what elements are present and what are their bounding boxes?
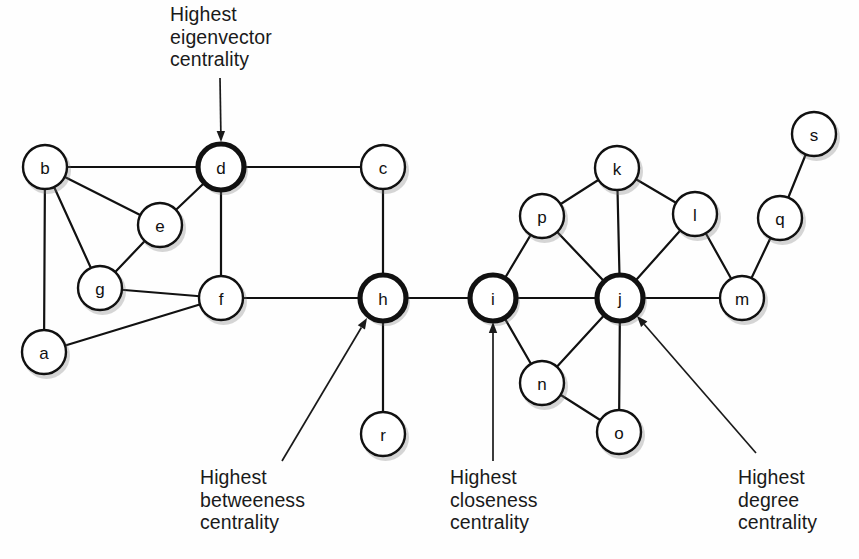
node-label: j (617, 290, 622, 309)
graph-node-g[interactable]: g (78, 266, 126, 315)
node-label: d (216, 159, 225, 178)
node-label: p (537, 208, 546, 227)
node-label: a (39, 344, 49, 363)
node-label: b (40, 159, 49, 178)
graph-node-q[interactable]: q (758, 196, 806, 245)
graph-node-a[interactable]: a (22, 330, 70, 379)
graph-node-b[interactable]: b (23, 145, 71, 194)
node-label: k (613, 160, 622, 179)
annotation-label-degree: Highest degree centrality (738, 466, 817, 534)
annotation-pointers-layer (217, 78, 756, 461)
node-label: f (219, 290, 224, 309)
graph-node-e[interactable]: e (138, 203, 186, 252)
graph-edge (44, 298, 221, 352)
graph-node-p[interactable]: p (520, 194, 568, 243)
annotation-arrow-line-eigenvector (220, 78, 221, 131)
node-label: s (810, 126, 819, 145)
node-label: r (380, 426, 386, 445)
node-label: o (614, 424, 623, 443)
graph-node-o[interactable]: o (597, 410, 645, 459)
node-label: i (491, 290, 495, 309)
node-label: q (775, 210, 784, 229)
graph-node-m[interactable]: m (720, 276, 768, 325)
node-label: e (155, 217, 164, 236)
graph-node-l[interactable]: l (673, 192, 721, 241)
node-label: h (378, 290, 387, 309)
node-label: c (379, 159, 388, 178)
graph-node-h[interactable]: h (360, 275, 410, 326)
graph-node-s[interactable]: s (792, 112, 840, 161)
annotation-arrowhead-eigenvector (217, 131, 225, 142)
annotation-arrow-line-degree (644, 324, 756, 453)
graph-node-c[interactable]: c (361, 145, 409, 194)
graph-node-i[interactable]: i (470, 275, 520, 326)
annotation-arrow-line-betweeness (282, 327, 361, 461)
graph-node-d[interactable]: d (198, 144, 248, 195)
annotation-label-closeness: Highest closeness centrality (450, 466, 538, 534)
annotation-label-eigenvector: Highest eigenvector centrality (170, 3, 272, 71)
edges-layer (44, 134, 814, 434)
graph-node-n[interactable]: n (520, 361, 568, 410)
annotation-arrowhead-betweeness (358, 318, 367, 330)
network-centrality-figure: abcdefghijklmnopqrs Highest eigenvector … (0, 0, 859, 559)
graph-node-f[interactable]: f (199, 276, 247, 325)
node-label: m (735, 290, 749, 309)
graph-canvas: abcdefghijklmnopqrs (0, 0, 859, 559)
graph-edge (44, 167, 45, 352)
annotation-label-betweeness: Highest betweeness centrality (200, 466, 305, 534)
graph-node-k[interactable]: k (595, 146, 643, 195)
graph-node-r[interactable]: r (361, 412, 409, 461)
node-label: g (95, 280, 104, 299)
node-label: l (693, 206, 697, 225)
node-label: n (537, 375, 546, 394)
